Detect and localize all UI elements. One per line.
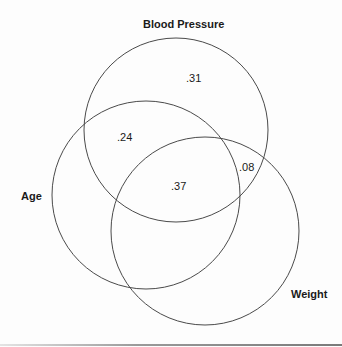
age-label: Age xyxy=(21,191,42,202)
weight-label: Weight xyxy=(291,289,327,300)
region-bp-weight-value: .08 xyxy=(239,162,254,173)
region-bp-age-value: .24 xyxy=(117,132,132,143)
venn-diagram: Blood Pressure Age Weight .31 .24 .37 .0… xyxy=(0,0,342,347)
weight-circle xyxy=(111,137,299,325)
blood-pressure-label: Blood Pressure xyxy=(143,19,224,30)
age-circle xyxy=(52,101,240,289)
region-bp-only-value: .31 xyxy=(186,73,201,84)
region-bp-age-weight-value: .37 xyxy=(171,181,186,192)
bottom-divider xyxy=(0,344,342,346)
